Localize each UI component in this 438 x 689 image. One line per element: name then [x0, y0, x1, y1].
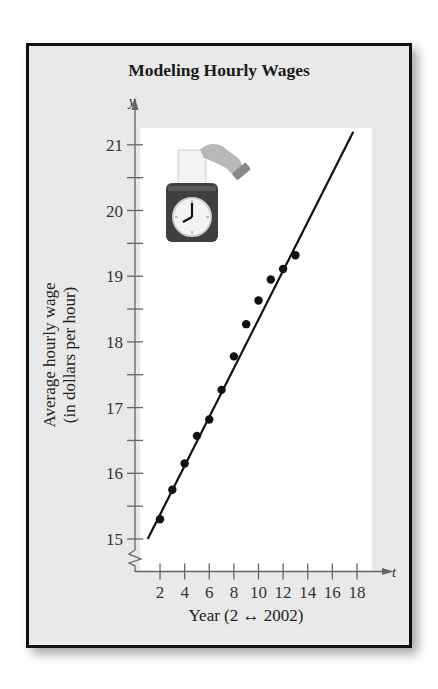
data-point — [291, 251, 299, 259]
x-tick-label: 14 — [299, 583, 317, 602]
chart-plot: 1516171819202124681012141618ytYear (2 ↔ … — [0, 0, 438, 689]
x-axis-variable: t — [392, 564, 397, 580]
x-tick-label: 18 — [348, 583, 365, 602]
x-tick-label: 6 — [205, 583, 214, 602]
y-tick-label: 16 — [106, 464, 123, 483]
data-point — [180, 459, 188, 467]
data-point — [156, 515, 164, 523]
y-tick-label: 17 — [106, 399, 124, 418]
data-point — [205, 415, 213, 423]
x-tick-label: 12 — [275, 583, 292, 602]
y-tick-label: 18 — [106, 333, 123, 352]
x-tick-label: 8 — [230, 583, 239, 602]
x-tick-label: 16 — [324, 583, 341, 602]
x-tick-label: 2 — [156, 583, 165, 602]
y-tick-label: 20 — [106, 202, 123, 221]
data-point — [168, 486, 176, 494]
data-point — [279, 265, 287, 273]
x-tick-label: 10 — [250, 583, 267, 602]
data-point — [217, 386, 225, 394]
y-axis-title: Average hourly wage(in dollars per hour) — [40, 282, 79, 427]
y-tick-label: 21 — [106, 136, 123, 155]
data-point — [242, 320, 250, 328]
data-point — [267, 275, 275, 283]
data-point — [254, 296, 262, 304]
data-point — [230, 352, 238, 360]
x-tick-label: 4 — [180, 583, 189, 602]
data-point — [193, 432, 201, 440]
x-axis-title: Year (2 ↔ 2002) — [189, 606, 304, 625]
y-tick-label: 15 — [106, 530, 123, 549]
y-axis-variable: y — [127, 93, 136, 109]
y-tick-label: 19 — [106, 267, 123, 286]
